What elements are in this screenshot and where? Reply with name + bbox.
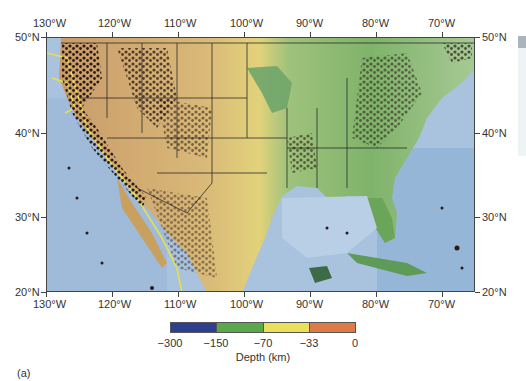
colorbar-tick-label: −300 — [158, 337, 183, 349]
panel-label: (a) — [17, 367, 30, 379]
lon-label-bottom: 90°W — [296, 298, 323, 310]
lat-label-right: 20°N — [482, 286, 507, 298]
axis-tick — [475, 37, 480, 38]
axis-tick — [475, 217, 480, 218]
axis-tick — [442, 292, 443, 297]
axis-tick — [475, 292, 480, 293]
colorbar-tick-label: −150 — [204, 337, 229, 349]
depth-colorbar — [170, 322, 356, 333]
lon-label-bottom: 70°W — [428, 298, 455, 310]
lon-label-bottom: 80°W — [362, 298, 389, 310]
axis-tick — [41, 292, 46, 293]
axis-tick — [310, 292, 311, 297]
axis-tick — [46, 292, 47, 297]
lon-label-top: 100°W — [230, 17, 263, 29]
lon-label-top: 70°W — [428, 17, 455, 29]
lon-label-bottom: 130°W — [33, 298, 66, 310]
lon-label-top: 130°W — [33, 17, 66, 29]
relief-map-graphic — [47, 38, 475, 292]
colorbar-tick-label: −70 — [254, 337, 273, 349]
lon-label-bottom: 110°W — [164, 298, 196, 310]
lat-label-right: 30°N — [482, 211, 507, 223]
colorbar-tick-label: −33 — [300, 337, 319, 349]
lon-label-top: 80°W — [362, 17, 389, 29]
lat-label-left: 20°N — [15, 286, 40, 298]
lat-label-right: 40°N — [482, 127, 507, 139]
axis-tick — [178, 292, 179, 297]
colorbar-title: Depth (km) — [236, 351, 290, 363]
lat-label-left: 30°N — [15, 211, 40, 223]
axis-tick — [112, 292, 113, 297]
lon-label-bottom: 100°W — [230, 298, 263, 310]
colorbar-segment-deep — [171, 323, 217, 332]
axis-tick — [244, 292, 245, 297]
lon-label-top: 90°W — [296, 17, 323, 29]
lon-label-bottom: 120°W — [98, 298, 131, 310]
seismicity-map — [46, 37, 475, 292]
lat-label-left: 40°N — [15, 127, 40, 139]
adjacent-panel-edge — [518, 36, 526, 156]
lon-label-top: 110°W — [164, 17, 196, 29]
colorbar-segment-shallow — [264, 323, 310, 332]
lon-label-top: 120°W — [98, 17, 131, 29]
colorbar-segment-crustal — [310, 323, 355, 332]
lat-label-right: 50°N — [482, 31, 507, 43]
colorbar-tick-label: 0 — [352, 337, 358, 349]
axis-tick — [475, 133, 480, 134]
lat-label-left: 50°N — [15, 31, 40, 43]
colorbar-segment-intermediate — [217, 323, 263, 332]
axis-tick — [376, 292, 377, 297]
